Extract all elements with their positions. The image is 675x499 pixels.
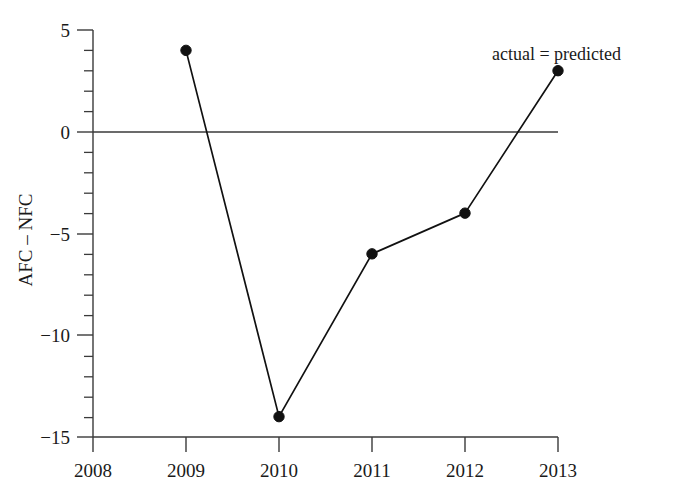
series-line-path [186,50,558,416]
y-tick-label-minus5: −5 [50,224,70,245]
data-point-2012 [460,208,470,218]
x-tick-label-2012: 2012 [446,460,484,481]
data-point-2011 [367,249,377,259]
chart-figure: 5 0 −5 −10 −15 AFC – NFC 2008 2009 2010 … [0,0,675,499]
x-tick-label-2008: 2008 [74,460,112,481]
data-point-2009 [181,45,191,55]
annotation-actual-equals-predicted: actual = predicted [492,44,621,64]
data-point-2013 [553,66,563,76]
data-series [181,45,563,422]
y-axis: 5 0 −5 −10 −15 AFC – NFC [15,20,93,448]
y-axis-title: AFC – NFC [15,194,36,287]
y-tick-label-minus10: −10 [40,325,70,346]
y-tick-label-minus15: −15 [40,427,70,448]
x-tick-label-2013: 2013 [539,460,577,481]
line-chart: 5 0 −5 −10 −15 AFC – NFC 2008 2009 2010 … [0,0,675,499]
x-tick-label-2009: 2009 [167,460,205,481]
x-tick-label-2010: 2010 [260,460,298,481]
y-tick-label-5: 5 [61,20,71,41]
series-markers-group [181,45,563,422]
x-axis: 2008 2009 2010 2011 2012 2013 [74,437,577,481]
data-point-2010 [274,411,284,421]
y-tick-label-0: 0 [61,122,71,143]
x-tick-label-2011: 2011 [353,460,390,481]
